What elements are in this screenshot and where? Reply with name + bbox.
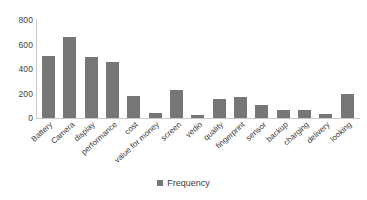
bar[interactable] bbox=[277, 110, 290, 118]
chart-legend: Frequency bbox=[0, 178, 367, 188]
bar[interactable] bbox=[170, 90, 183, 118]
x-axis-label-slot: fingerprint bbox=[230, 119, 251, 171]
y-axis-tick-400: 400 bbox=[3, 65, 33, 74]
x-axis-label-slot: sensor bbox=[251, 119, 272, 171]
x-axis-label-slot: screen bbox=[166, 119, 187, 171]
x-axis-label-slot: value for money bbox=[145, 119, 166, 171]
y-axis-tick-0: 0 bbox=[3, 114, 33, 123]
x-axis-label-slot: charging bbox=[294, 119, 315, 171]
bar-slot bbox=[337, 20, 358, 118]
bar[interactable] bbox=[255, 105, 268, 118]
bar[interactable] bbox=[63, 37, 76, 118]
bar-slot bbox=[209, 20, 230, 118]
y-axis-line bbox=[36, 19, 37, 119]
bar-slot bbox=[59, 20, 80, 118]
bar-slot bbox=[38, 20, 59, 118]
bar-slot bbox=[251, 20, 272, 118]
y-axis-tick-labels: 800 600 400 200 0 bbox=[0, 20, 33, 118]
x-axis-label-slot: looking bbox=[337, 119, 358, 171]
x-axis-label-slot: backup bbox=[273, 119, 294, 171]
bar-slot bbox=[123, 20, 144, 118]
x-axis-label: vedio bbox=[184, 120, 204, 139]
bar-slot bbox=[81, 20, 102, 118]
bar-slot bbox=[102, 20, 123, 118]
y-axis-tick-800: 800 bbox=[3, 16, 33, 25]
bar[interactable] bbox=[85, 57, 98, 118]
y-axis-tick-200: 200 bbox=[3, 90, 33, 99]
bar[interactable] bbox=[42, 56, 55, 118]
bar[interactable] bbox=[319, 114, 332, 118]
bar[interactable] bbox=[298, 110, 311, 118]
x-axis-label-slot: Camera bbox=[59, 119, 80, 171]
bar-chart: 800 600 400 200 0 BatteryCameradisplaype… bbox=[0, 0, 367, 200]
y-axis-tick-600: 600 bbox=[3, 41, 33, 50]
bar[interactable] bbox=[234, 97, 247, 118]
bar[interactable] bbox=[191, 115, 204, 118]
bar[interactable] bbox=[341, 94, 354, 118]
x-axis-label-slot: delivery bbox=[315, 119, 336, 171]
bars-container bbox=[38, 20, 358, 118]
bar[interactable] bbox=[106, 62, 119, 118]
bar-slot bbox=[294, 20, 315, 118]
bar-slot bbox=[166, 20, 187, 118]
bar-slot bbox=[187, 20, 208, 118]
bar[interactable] bbox=[149, 113, 162, 118]
square-marker-icon bbox=[157, 180, 163, 186]
legend-label-frequency: Frequency bbox=[167, 178, 210, 188]
bar-slot bbox=[145, 20, 166, 118]
bar[interactable] bbox=[127, 96, 140, 118]
bar-slot bbox=[273, 20, 294, 118]
x-axis-label-slot: vedio bbox=[187, 119, 208, 171]
bar-slot bbox=[230, 20, 251, 118]
bar[interactable] bbox=[213, 99, 226, 118]
x-axis-category-labels: BatteryCameradisplayperformancecostvalue… bbox=[38, 119, 358, 171]
bar-slot bbox=[315, 20, 336, 118]
